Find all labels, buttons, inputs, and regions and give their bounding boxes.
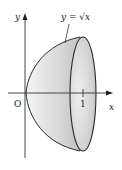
origin-label: O — [14, 99, 21, 109]
curve-label: y = √x — [60, 12, 90, 22]
y-axis-label: y — [14, 12, 21, 22]
tick-label-1: 1 — [80, 99, 86, 109]
x-axis-label: x — [109, 102, 114, 112]
x-axis-arrow-icon — [106, 91, 113, 96]
y-axis-arrow-icon — [23, 13, 28, 20]
solid-of-revolution-diagram: y = √x y x O 1 — [0, 0, 122, 170]
